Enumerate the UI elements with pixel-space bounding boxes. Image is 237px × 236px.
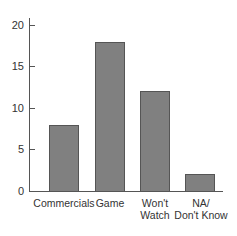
bar-wont-watch [140, 91, 170, 192]
bar-chart: 0 5 10 15 20 Commercials Game Won't Watc… [0, 0, 237, 236]
bar-na-dont-know [185, 174, 215, 192]
y-axis [29, 18, 30, 192]
y-tick-10 [29, 108, 35, 109]
y-tick-5 [29, 149, 35, 150]
x-label-na-dont-know: NA/ Don't Know [168, 197, 234, 221]
y-tick-15 [29, 66, 35, 67]
y-tick-label: 20 [2, 19, 24, 31]
y-tick-20 [29, 25, 35, 26]
bar-game [95, 42, 125, 192]
y-tick-0 [29, 191, 35, 192]
y-tick-label: 15 [2, 60, 24, 72]
y-tick-label: 0 [2, 185, 24, 197]
y-tick-label: 10 [2, 102, 24, 114]
y-tick-label: 5 [2, 143, 24, 155]
x-label-game: Game [85, 197, 135, 209]
bar-commercials [49, 125, 79, 192]
